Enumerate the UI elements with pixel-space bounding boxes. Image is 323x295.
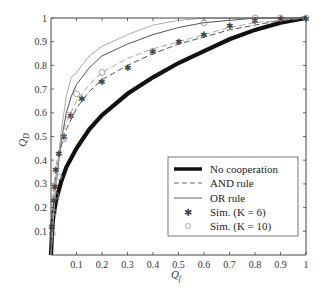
legend-symbol-asterisk: ✱ [184,207,192,218]
x-tick-label: 0.8 [249,259,262,270]
marker-asterisk: ✱ [55,149,63,159]
x-tick-label: 0.1 [70,259,83,270]
marker-circle [99,70,105,76]
x-tick-label: 1 [304,259,309,270]
marker-asterisk: ✱ [124,63,132,73]
y-tick-label: 0.4 [35,155,48,166]
legend-symbol-circle [186,224,191,229]
y-axis-label: QD [16,133,31,147]
y-tick-label: 0.8 [35,60,48,71]
y-tick-label: 0.2 [35,202,48,213]
y-tick-label: 0.1 [35,226,48,237]
y-tick-label: 0.6 [35,107,48,118]
legend: No cooperation AND rule OR rule ✱ Sim. (… [168,157,298,236]
x-tick-label: 0.6 [198,259,211,270]
x-tick-label: 0.3 [121,259,134,270]
marker-asterisk: ✱ [226,21,234,31]
legend-label-and-rule: AND rule [210,177,254,189]
x-tick-label: 0.4 [147,259,160,270]
x-tick-label: 0.2 [96,259,109,270]
y-tick-label: 1 [42,13,47,24]
x-tick-label: 0.7 [223,259,236,270]
legend-label-no-cooperation: No cooperation [210,163,279,175]
y-tick-label: 0.5 [35,131,48,142]
marker-asterisk: ✱ [98,77,106,87]
legend-label-sim-k6: Sim. (K = 6) [210,206,266,219]
y-tick-label: 0.3 [35,178,48,189]
marker-asterisk: ✱ [175,37,183,47]
x-axis-label: Qf [171,268,183,283]
roc-chart: ✱✱✱✱✱✱✱✱✱✱✱✱✱✱✱✱✱ 0.10.20.30.40.50.60.70… [0,0,323,295]
legend-label-or-rule: OR rule [210,192,245,204]
legend-label-sim-k10: Sim. (K = 10) [210,220,272,233]
marker-asterisk: ✱ [200,30,208,40]
y-tick-label: 0.7 [35,84,48,95]
y-tick-label: 0.9 [35,36,48,47]
x-tick-label: 0.9 [274,259,287,270]
marker-asterisk: ✱ [51,182,59,192]
